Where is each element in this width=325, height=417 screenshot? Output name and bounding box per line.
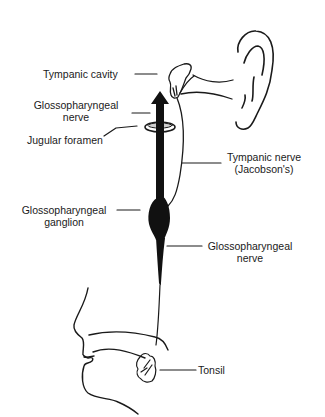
face-profile: [74, 288, 168, 414]
label-tonsil: Tonsil: [198, 364, 225, 376]
label-jugular-foramen: Jugular foramen: [27, 134, 103, 146]
ear-outline: [236, 31, 273, 129]
nerve-fiber-lower: [156, 285, 160, 345]
label-glossopharyngeal-ganglion: Glossopharyngeal ganglion: [14, 204, 114, 228]
label-line-1: Glossopharyngeal: [14, 204, 114, 216]
label-line-2: nerve: [26, 111, 126, 123]
label-line-1: Glossopharyngeal: [200, 240, 300, 252]
tympanic-nerve-line: [168, 98, 183, 206]
label-tympanic-nerve: Tympanic nerve (Jacobson's): [218, 151, 310, 175]
label-tympanic-cavity: Tympanic cavity: [43, 68, 118, 80]
tympanic-cavity-shape: [169, 64, 233, 99]
label-glossopharyngeal-nerve-lower: Glossopharyngeal nerve: [200, 240, 300, 264]
label-line-2: nerve: [200, 252, 300, 264]
label-line-2: ganglion: [14, 216, 114, 228]
label-line-1: Glossopharyngeal: [26, 99, 126, 111]
tonsil-shape: [137, 354, 156, 383]
glossopharyngeal-nerve-trunk: [148, 91, 170, 285]
label-line-2: (Jacobson's): [218, 163, 310, 175]
label-glossopharyngeal-nerve-upper: Glossopharyngeal nerve: [26, 99, 126, 123]
label-line-1: Tympanic nerve: [218, 151, 310, 163]
